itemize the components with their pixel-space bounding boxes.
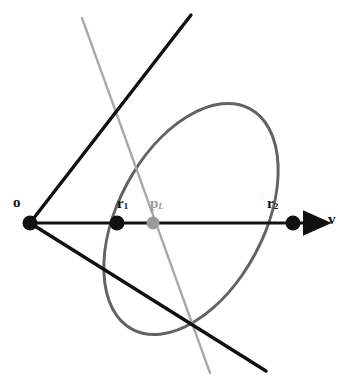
- point-r2: [286, 216, 301, 231]
- label-near-intersection-text: r: [117, 195, 124, 211]
- label-projected-point: pL: [150, 196, 164, 211]
- label-origin: o: [13, 195, 21, 210]
- upper-cone-ray: [30, 15, 191, 223]
- label-near-intersection-subscript: 1: [124, 201, 129, 211]
- label-projected-point-subscript: L: [158, 201, 164, 211]
- diagram-canvas: o r1 pL r2 v: [0, 0, 364, 390]
- label-direction-vector: v: [328, 212, 336, 227]
- lower-cone-ray: [30, 223, 266, 371]
- label-direction-vector-text: v: [328, 211, 336, 227]
- label-far-intersection-subscript: 2: [274, 201, 279, 211]
- point-o: [23, 216, 38, 231]
- label-far-intersection-text: r: [267, 195, 274, 211]
- label-origin-text: o: [13, 194, 21, 210]
- point-r1: [110, 216, 125, 231]
- point-pl: [147, 217, 160, 230]
- label-near-intersection: r1: [117, 196, 128, 211]
- geometry-svg: [0, 0, 364, 390]
- label-far-intersection: r2: [267, 196, 278, 211]
